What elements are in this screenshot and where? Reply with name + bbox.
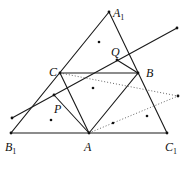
point-b <box>137 72 140 75</box>
inner-triangle-abc <box>60 73 138 133</box>
label-q: Q <box>111 45 120 59</box>
label-a1: A1 <box>112 6 124 22</box>
geometry-diagram: A1 Q C B P B1 A C1 <box>0 0 185 172</box>
label-c1: C1 <box>165 140 177 156</box>
label-b: B <box>146 66 154 80</box>
interior-dot <box>92 87 95 90</box>
interior-dot <box>98 41 101 44</box>
interior-dot <box>50 119 53 122</box>
point-line-left-end <box>11 117 14 120</box>
point-a1 <box>108 11 111 14</box>
point-c <box>59 72 62 75</box>
label-p: P <box>53 102 62 116</box>
point-q <box>116 59 119 62</box>
label-a: A <box>83 140 92 154</box>
point-p <box>53 94 56 97</box>
point-dotted-right-end <box>177 95 180 98</box>
label-b1: B1 <box>5 140 16 156</box>
interior-dot <box>146 115 149 118</box>
interior-dot <box>112 122 115 125</box>
point-b1 <box>10 132 13 135</box>
point-line-right-end <box>176 27 179 30</box>
point-c1 <box>166 132 169 135</box>
dotted-line-c-right <box>60 73 178 96</box>
point-a <box>88 132 91 135</box>
label-c: C <box>49 65 58 79</box>
